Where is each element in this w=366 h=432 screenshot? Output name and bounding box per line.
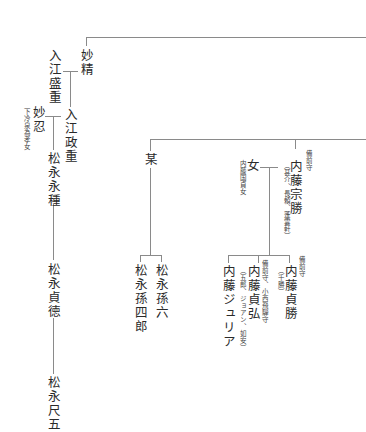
person-matsunaga-sekigo: 松永尺五	[46, 376, 59, 432]
alias-sadakatsu: （千勝）	[276, 267, 283, 295]
line-sekigo	[53, 318, 54, 374]
person-irie-masashige: 入江政重	[63, 108, 76, 164]
title-munekatsu: 備前守	[304, 150, 311, 171]
person-matsunaga-nagatane: 松永永種	[46, 152, 59, 208]
line-bou-children	[150, 168, 151, 255]
line-bou	[150, 139, 151, 151]
person-matsunaga-magoshiro: 松永孫四郎	[133, 264, 146, 334]
line-second-gen	[150, 139, 366, 140]
line-sadakatsu	[289, 255, 290, 263]
note-myonin: 下冷泉為孝女	[22, 108, 29, 150]
alias-tadahiro: （五郎、ジョアン、如安）	[238, 267, 245, 351]
line-magoshiro	[140, 255, 141, 262]
person-myosei: 妙精	[79, 49, 92, 77]
person-naito-julia: 内藤ジュリア	[221, 265, 234, 349]
person-matsunaga-teitoku: 松永貞徳	[46, 263, 59, 319]
line-munekatsu	[295, 139, 296, 149]
line-irie-child	[70, 71, 71, 107]
person-matsunaga-magoroku: 松永孫六	[154, 264, 167, 320]
line-bou-kids	[140, 255, 161, 256]
line-tadahiro	[258, 255, 259, 263]
note-onna: 内藤国貞女	[238, 160, 245, 195]
person-onna: 女	[245, 159, 258, 173]
title-sadakatsu: 備前守	[297, 256, 304, 277]
person-naito-tadahiro: 内藤貞弘	[246, 265, 259, 321]
person-myonin: 妙忍	[31, 106, 44, 134]
alias-munekatsu: （甚介、長頼、蓬雲軒）	[282, 162, 289, 239]
line-naito-children	[269, 167, 270, 255]
line-teitoku	[53, 204, 54, 260]
line-nagatane	[53, 116, 54, 150]
line-magoroku	[161, 255, 162, 262]
person-irie-morishige: 入江盛重	[47, 49, 60, 105]
line-julia	[228, 255, 229, 263]
title-tadahiro: 備前守、小西飛騨守	[260, 260, 267, 323]
person-bou: 某	[143, 153, 156, 167]
person-naito-sadakatsu: 内藤貞勝	[283, 265, 296, 321]
line-myosei-drop	[86, 37, 87, 46]
line-top	[86, 37, 366, 38]
